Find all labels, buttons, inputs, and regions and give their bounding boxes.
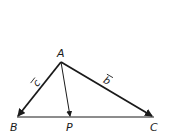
- point-label-c: C: [150, 121, 158, 134]
- vector-ap-arrow: [61, 62, 70, 116]
- vector-diagram: A B P C c b: [0, 0, 170, 140]
- vector-b-arrow: [61, 62, 152, 116]
- point-label-b: B: [10, 121, 18, 134]
- point-label-p: P: [66, 121, 73, 134]
- vector-c-arrow: [18, 62, 61, 116]
- vector-label-b: b: [101, 74, 113, 87]
- point-label-a: A: [56, 47, 65, 60]
